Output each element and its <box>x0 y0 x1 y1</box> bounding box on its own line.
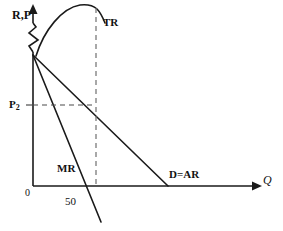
x-axis-arrowhead <box>252 182 262 191</box>
tr-curve-label: TR <box>103 17 118 28</box>
demand-ar-curve-label: D=AR <box>169 169 199 180</box>
x-axis <box>33 182 262 191</box>
y-axis <box>29 4 39 186</box>
demand-ar-curve <box>33 55 168 186</box>
x-tick-label-50: 50 <box>65 196 76 207</box>
diagram-svg <box>0 0 283 231</box>
figure-canvas: R,P Q TR MR D=AR P2 0 50 <box>0 0 283 231</box>
tr-curve <box>36 5 105 56</box>
y-axis-break-zigzag-icon <box>29 23 38 52</box>
origin-label: 0 <box>25 188 30 198</box>
y-axis-label: R,P <box>12 9 31 21</box>
mr-curve-label: MR <box>57 163 75 174</box>
x-axis-label: Q <box>263 174 272 186</box>
price-p2-label: P2 <box>9 99 20 110</box>
